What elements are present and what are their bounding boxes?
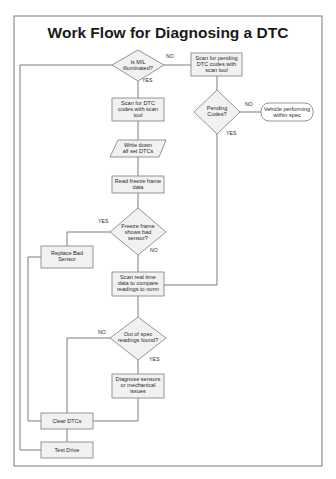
process-clear-dtcs: Clear DTCs <box>41 413 93 429</box>
edge-label-spec-no: NO <box>98 329 106 335</box>
flowchart: Work Flow for Diagnosing a DTC <box>0 0 336 479</box>
svg-text:sensor?: sensor? <box>128 235 148 241</box>
edge-label-freeze-no: NO <box>150 247 158 253</box>
edge-label-pending-yes: YES <box>226 130 237 136</box>
edge-label-mil-yes: YES <box>142 77 153 83</box>
svg-text:all set DTCs: all set DTCs <box>123 148 154 154</box>
svg-text:data: data <box>133 184 145 190</box>
svg-text:Test Drive: Test Drive <box>55 447 80 453</box>
decision-out-of-spec: Out of spec readings found? <box>110 317 166 360</box>
edge-label-pending-no: NO <box>245 101 253 107</box>
svg-text:within spec: within spec <box>272 112 301 118</box>
svg-text:issues: issues <box>130 388 146 394</box>
process-replace-sensor: Replace Bad Sensor <box>41 246 93 268</box>
svg-text:illuminated?: illuminated? <box>123 65 153 71</box>
decision-pending-codes: Pending Codes? <box>194 90 240 134</box>
svg-text:Clear DTCs: Clear DTCs <box>52 418 81 424</box>
process-scan-dtc: Scan for DTC codes with scan tool <box>112 98 164 121</box>
io-write-down-dtcs: Write down all set DTCs <box>110 140 166 157</box>
svg-text:scan tool: scan tool <box>205 67 227 73</box>
process-test-drive: Test Drive <box>41 442 93 458</box>
edge-label-freeze-yes: YES <box>98 218 109 224</box>
process-scan-pending: Scan for pending DTC codes with scan too… <box>191 53 242 76</box>
process-diagnose: Diagnose sensors or mechanical issues <box>112 374 164 398</box>
edge-label-mil-no: NO <box>166 53 174 59</box>
svg-text:readings found?: readings found? <box>118 337 158 343</box>
svg-text:Sensor: Sensor <box>58 256 76 262</box>
diagram-frame <box>14 16 322 466</box>
svg-text:readings to norm: readings to norm <box>117 286 159 292</box>
process-scan-realtime: Scan real time data to compare readings … <box>112 272 164 296</box>
terminator-vehicle-ok: Vehicle performing within spec <box>261 103 313 121</box>
edge-label-spec-yes: YES <box>149 356 160 362</box>
diagram-title: Work Flow for Diagnosing a DTC <box>48 24 289 41</box>
svg-text:Codes?: Codes? <box>207 111 226 117</box>
decision-mil-illuminated: Is MIL illuminated? <box>112 50 164 81</box>
process-read-freeze-frame: Read freeze frame data <box>112 176 164 193</box>
svg-text:tool: tool <box>133 112 142 118</box>
